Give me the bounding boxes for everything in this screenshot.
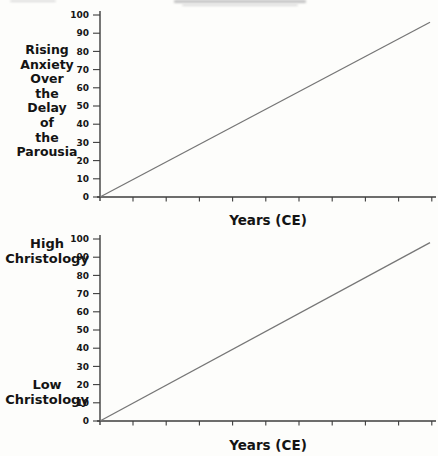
x-axis-label-bottom-chart: Years (CE) <box>100 437 436 453</box>
y-tick-label: 60 <box>76 83 89 93</box>
y-tick-label: 80 <box>76 47 89 57</box>
y-tick-label: 70 <box>76 289 89 299</box>
y-tick-label: 60 <box>76 307 89 317</box>
scanned-chart-page: RisingAnxietyOvertheDelayoftheParousia 1… <box>0 0 438 456</box>
y-tick-label: 30 <box>76 362 89 372</box>
y-tick-label: 100 <box>70 10 89 20</box>
data-line-christology-trend <box>100 243 430 421</box>
y-tick-label: 10 <box>76 174 89 184</box>
y-tick-label: 50 <box>76 101 89 111</box>
y-tick-label: 0 <box>83 192 89 202</box>
y-tick-label: 20 <box>76 156 89 166</box>
y-tick-label: 50 <box>76 325 89 335</box>
y-tick-label: 80 <box>76 271 89 281</box>
anxiety-delay-chart: 1009080706050403020100 <box>0 0 438 232</box>
y-tick-label: 90 <box>76 28 89 38</box>
y-tick-label: 100 <box>70 234 89 244</box>
christology-chart: 1009080706050403020100 <box>0 224 438 456</box>
y-tick-label: 10 <box>76 398 89 408</box>
y-tick-label: 20 <box>76 380 89 390</box>
y-tick-label: 40 <box>76 343 89 353</box>
data-line-rising-anxiety-trend <box>100 22 430 197</box>
y-tick-label: 70 <box>76 65 89 75</box>
y-tick-label: 90 <box>76 252 89 262</box>
y-tick-label: 0 <box>83 416 89 426</box>
y-tick-label: 30 <box>76 138 89 148</box>
y-tick-label: 40 <box>76 119 89 129</box>
